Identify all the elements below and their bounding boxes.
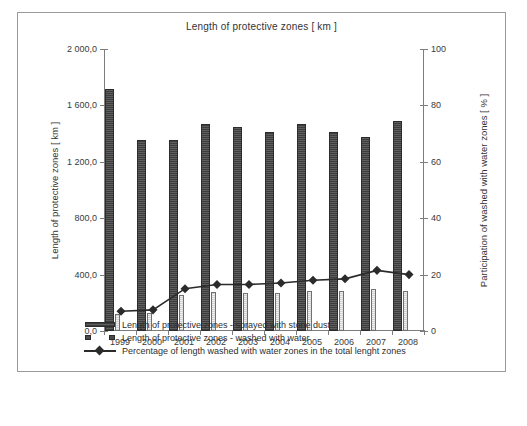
percentage-line-marker [116, 307, 125, 316]
percentage-line-marker [276, 279, 285, 288]
y-axis-left-label-text: Length of protective zones [ km ] [50, 121, 61, 258]
y-axis-left-tick-label: 1 200,0 [67, 157, 97, 167]
legend-label-washed-water: Length of protective zones - washed with… [122, 333, 310, 343]
y-axis-right-tick-label: 100 [431, 44, 446, 54]
y-axis-right-tick-label: 40 [431, 213, 441, 223]
percentage-line-marker [404, 270, 413, 279]
percentage-line-marker [180, 284, 189, 293]
y-axis-left-tick-label: 1 600,0 [67, 100, 97, 110]
legend-item-percentage: Percentage of length washed with water z… [78, 344, 478, 357]
y-axis-left-tick-label: 400,0 [74, 270, 97, 280]
legend-label-percentage: Percentage of length washed with water z… [122, 346, 406, 356]
chart-legend: Length of protective zones - sprayed wit… [78, 318, 478, 357]
legend-swatch-stone-dust-icon [78, 318, 122, 331]
percentage-line-marker [244, 280, 253, 289]
y-axis-right-tick-label: 60 [431, 157, 441, 167]
chart-container: Length of protective zones [ km ] Length… [17, 12, 506, 372]
legend-swatch-washed-water-icon [78, 331, 122, 344]
chart-title: Length of protective zones [ km ] [18, 21, 505, 32]
y-axis-right-label-text: Participation of washed with water zones… [479, 93, 490, 286]
y-axis-left-label: Length of protective zones [ km ] [48, 49, 62, 331]
legend-item-stone-dust: Length of protective zones - sprayed wit… [78, 318, 478, 331]
percentage-line-path [121, 270, 409, 311]
percentage-line-marker [340, 274, 349, 283]
line-series [104, 49, 424, 331]
y-axis-right-tick-label: 20 [431, 270, 441, 280]
percentage-line-marker [148, 305, 157, 314]
plot-area: 0,0400,0800,01 200,01 600,02 000,0 02040… [104, 49, 424, 331]
percentage-line-marker [308, 276, 317, 285]
percentage-line-marker [372, 266, 381, 275]
y-axis-left-tick-label: 2 000,0 [67, 44, 97, 54]
y-axis-right-label: Participation of washed with water zones… [477, 49, 491, 331]
y-axis-left-tick-label: 800,0 [74, 213, 97, 223]
legend-swatch-percentage-icon [78, 344, 122, 357]
legend-label-stone-dust: Length of protective zones - sprayed wit… [122, 320, 330, 330]
y-axis-right-tick-label: 80 [431, 100, 441, 110]
percentage-line-marker [212, 280, 221, 289]
legend-item-washed-water: Length of protective zones - washed with… [78, 331, 478, 344]
